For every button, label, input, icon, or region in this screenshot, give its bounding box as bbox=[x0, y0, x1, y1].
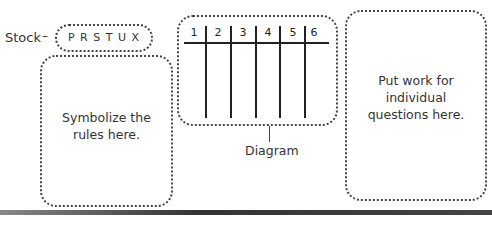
diagram-column-divider bbox=[205, 26, 207, 118]
column-header-5: 5 bbox=[286, 26, 300, 39]
work-box[interactable]: Put work for individual questions here. bbox=[345, 10, 487, 201]
column-header-1: 1 bbox=[187, 26, 201, 39]
rules-box-text: Symbolize the rules here. bbox=[42, 109, 171, 143]
diagram-column-divider bbox=[255, 26, 257, 118]
rules-text-line-2: rules here. bbox=[42, 126, 171, 143]
diagram-caption-connector bbox=[269, 126, 270, 142]
diagram-column-divider bbox=[304, 26, 306, 118]
column-header-2: 2 bbox=[211, 26, 225, 39]
column-header-3: 3 bbox=[236, 26, 250, 39]
rules-text-line-1: Symbolize the bbox=[42, 109, 171, 126]
rules-box[interactable]: Symbolize the rules here. bbox=[40, 55, 173, 207]
stock-label: Stock bbox=[5, 30, 41, 45]
stock-pill: P R S T U X bbox=[55, 24, 153, 52]
work-box-text: Put work for individual questions here. bbox=[347, 72, 485, 123]
diagram-column-divider bbox=[279, 26, 281, 118]
stock-connector: – bbox=[42, 29, 48, 43]
work-text-line-2: questions here. bbox=[347, 106, 485, 123]
diagram-caption: Diagram bbox=[245, 143, 299, 158]
column-header-6: 6 bbox=[307, 26, 321, 39]
column-header-4: 4 bbox=[261, 26, 275, 39]
bottom-rule bbox=[0, 210, 492, 215]
diagram-column-divider bbox=[230, 26, 232, 118]
stock-items: P R S T U X bbox=[57, 31, 151, 44]
work-text-line-1: Put work for individual bbox=[347, 72, 485, 106]
